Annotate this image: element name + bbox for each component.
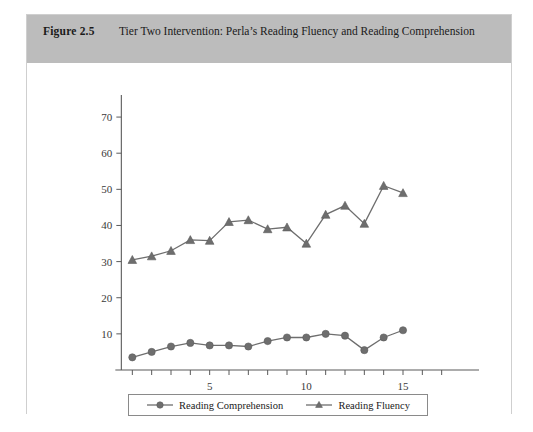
chart-series [128,181,407,361]
figure-header: Figure 2.5 Tier Two Intervention: Perla’… [27,15,511,63]
data-point [187,339,194,346]
data-point [167,246,176,254]
x-tick-label: 10 [301,380,313,392]
chart-axes [115,95,479,370]
y-tick-label: 70 [101,111,113,123]
legend-item-reading-fluency: Reading Fluency [305,399,409,411]
y-tick-label: 50 [101,183,113,195]
y-tick-label: 20 [101,292,113,304]
data-point [321,210,330,218]
legend-item-reading-comprehension: Reading Comprehension [146,399,283,411]
data-point [225,342,232,349]
figure-container: Figure 2.5 Tier Two Intervention: Perla’… [26,14,512,414]
data-point [167,343,174,350]
data-point [129,354,136,361]
plot-area: 1020304050607051015 Reading Comprehensio… [27,63,511,415]
x-tick-label: 15 [398,380,410,392]
line-chart: 1020304050607051015 [27,63,511,415]
y-tick-label: 60 [101,147,113,159]
data-point [399,189,408,197]
y-tick-label: 40 [101,219,113,231]
data-point [341,332,348,339]
figure-number: Figure 2.5 [27,24,119,39]
triangle-marker-icon [305,399,333,411]
y-tick-label: 30 [101,256,113,268]
data-point [341,201,350,209]
data-point [361,347,368,354]
circle-marker-icon [146,399,174,411]
data-point [148,348,155,355]
data-point [303,334,310,341]
data-point [283,334,290,341]
data-point [322,330,329,337]
data-point [379,181,388,189]
data-point [206,342,213,349]
legend-label-reading-fluency: Reading Fluency [338,400,409,411]
chart-ticks [116,117,441,375]
data-point [380,334,387,341]
data-point [399,327,406,334]
legend-label-reading-comprehension: Reading Comprehension [179,400,283,411]
data-point [264,337,271,344]
figure-title: Tier Two Intervention: Perla’s Reading F… [119,24,511,40]
chart-legend: Reading Comprehension Reading Fluency [128,394,428,416]
y-tick-label: 10 [101,328,113,340]
x-tick-label: 5 [207,380,213,392]
data-point [245,343,252,350]
